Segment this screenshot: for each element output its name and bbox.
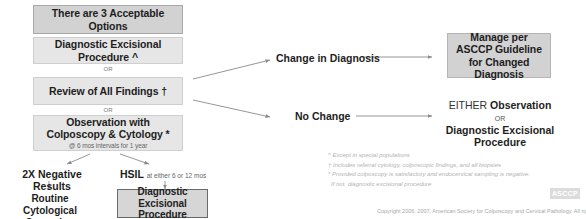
option-observation-line2: Colposcopy & Cytology * (46, 128, 169, 140)
hsil-qualifier: at either 6 or 12 mos (147, 172, 207, 179)
hsil-label: HSIL at either 6 or 12 mos (120, 168, 206, 180)
or-separator: OR (33, 66, 183, 72)
footnote: * Provided colposcopy is satisfactory an… (328, 170, 530, 180)
footnote: ^ Except in special populations (328, 151, 530, 161)
option-observation-interval: @ 6 mos intervals for 1 year (69, 142, 148, 149)
observation-word: Observation (490, 99, 551, 111)
or-word: OR (495, 115, 506, 122)
footnotes: ^ Except in special populations † Includ… (328, 151, 530, 189)
option-observation-line1: Observation with (66, 116, 150, 128)
options-header-text: There are 3 Acceptable Options (34, 7, 182, 31)
routine-screening-label: Routine Cytological Screening (0, 193, 100, 219)
footnote: † Includes referral cytology, colposcopi… (328, 161, 530, 171)
either-word: EITHER (449, 99, 488, 111)
no-change-label: No Change (295, 110, 350, 122)
change-in-diagnosis-label: Change in Diagnosis (276, 52, 380, 64)
footnote: If not, diagnostic excisional procedure (328, 180, 530, 190)
no-change-result: EITHER Observation OR Diagnostic Excisio… (445, 99, 555, 149)
manage-per-guideline-box: Manage per ASCCP Guideline for Changed D… (447, 33, 551, 78)
option-review-findings-text: Review of All Findings † (49, 85, 167, 97)
option-diagnostic-excisional: Diagnostic Excisional Procedure ^ (33, 37, 183, 64)
option-review-findings: Review of All Findings † (33, 77, 183, 105)
hsil-diagnostic-excisional-box: Diagnostic Excisional Procedure (117, 189, 208, 218)
option-observation: Observation with Colposcopy & Cytology *… (33, 115, 183, 151)
or-separator: OR (33, 107, 183, 113)
option-diagnostic-excisional-text: Diagnostic Excisional Procedure ^ (34, 38, 182, 62)
asccp-logo: ASCCP (550, 188, 580, 199)
options-header: There are 3 Acceptable Options (33, 5, 183, 34)
copyright-text: Copyright 2006, 2007, American Society f… (377, 208, 586, 214)
negative-results-label: 2X Negative Results (2, 168, 102, 193)
